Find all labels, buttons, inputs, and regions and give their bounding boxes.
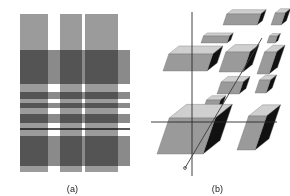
block-mid-right <box>257 45 285 74</box>
block-top-left-upper-front-face <box>223 14 261 25</box>
panel-b: (b) <box>145 0 290 196</box>
band-3 <box>20 103 130 108</box>
block-mid-left-large-front-face <box>163 54 213 71</box>
block-top-left-upper-top-face <box>227 10 266 14</box>
panel-a-caption: (a) <box>0 184 145 194</box>
band-6 <box>20 136 130 166</box>
block-top-left-lower-top-face <box>203 33 233 36</box>
block-top-left-lower-front-face <box>201 36 229 43</box>
band-1 <box>20 50 130 84</box>
block-top-right-lower <box>267 34 281 43</box>
band-5 <box>20 128 130 130</box>
block-top-left-lower <box>201 33 233 43</box>
isometric-block-group <box>157 9 290 154</box>
band-2 <box>20 92 130 99</box>
isometric-diagram <box>145 0 290 196</box>
panel-a: (a) <box>0 0 145 196</box>
block-bottom-right <box>237 105 281 150</box>
figure-root: (a) (b) <box>0 0 290 196</box>
band-4 <box>20 114 130 123</box>
block-mid-center <box>219 45 259 72</box>
block-mid-right-low <box>255 75 277 93</box>
panel-b-caption: (b) <box>145 184 290 194</box>
block-top-left-upper <box>223 10 266 25</box>
block-top-right-upper <box>271 9 290 25</box>
block-mid-left-large <box>163 46 223 71</box>
isometric-svg <box>145 0 290 196</box>
plaid-pattern <box>20 14 130 172</box>
block-bottom-large <box>157 104 232 154</box>
